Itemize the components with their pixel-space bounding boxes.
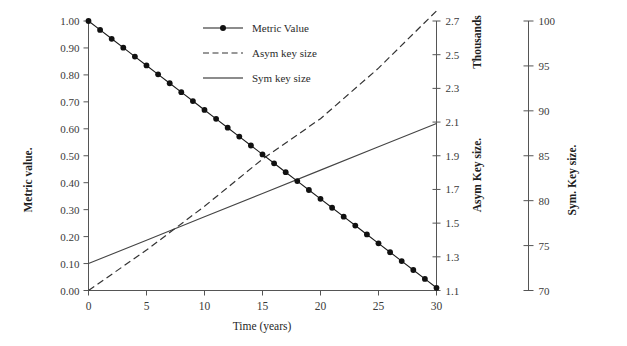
left-y-tick-label: 0.00 bbox=[60, 285, 80, 297]
series-metric-value-marker bbox=[97, 27, 103, 33]
secondary-y-tick-label: 2.3 bbox=[446, 82, 460, 94]
secondary-y-tick-label: 1.5 bbox=[446, 217, 460, 229]
left-y-tick-label: 0.10 bbox=[60, 258, 80, 270]
series-metric-value-marker bbox=[109, 36, 115, 42]
tertiary-y-tick-label: 70 bbox=[539, 285, 551, 297]
secondary-y-tick-label: 1.3 bbox=[446, 251, 460, 263]
left-y-tick-label: 0.70 bbox=[60, 96, 80, 108]
series-metric-value-marker bbox=[86, 18, 92, 24]
left-y-tick-label: 0.40 bbox=[60, 177, 80, 189]
series-metric-value-marker bbox=[144, 63, 150, 69]
chart-figure: 0.000.100.200.300.400.500.600.700.800.90… bbox=[0, 0, 627, 346]
series-metric-value-marker bbox=[271, 160, 277, 166]
series-metric-value-marker bbox=[434, 285, 440, 291]
series-metric-value-marker bbox=[236, 134, 242, 140]
legend-label-asym-key-size: Asym key size bbox=[252, 47, 317, 59]
left-y-axis-title: Metric value. bbox=[22, 147, 34, 212]
series-metric-value-marker bbox=[213, 116, 219, 122]
x-tick-label: 15 bbox=[257, 300, 269, 312]
series-metric-value-marker bbox=[283, 169, 289, 175]
series-metric-value-marker bbox=[190, 98, 196, 104]
series-metric-value-marker bbox=[329, 205, 335, 211]
tertiary-y-tick-label: 80 bbox=[539, 195, 551, 207]
left-y-tick-label: 0.90 bbox=[60, 42, 80, 54]
chart-legend: Metric Value Asym key size Sym key size bbox=[203, 22, 317, 84]
x-axis-ticks: 051015202530 bbox=[86, 291, 443, 312]
secondary-y-tick-label: 1.9 bbox=[446, 150, 460, 162]
series-sym-key-size-line bbox=[89, 123, 437, 263]
tertiary-y-tick-label: 75 bbox=[539, 240, 551, 252]
series-metric-value-marker bbox=[341, 214, 347, 220]
left-y-tick-label: 0.60 bbox=[60, 123, 80, 135]
tertiary-y-axis-title: Sym. Key size. bbox=[566, 144, 579, 215]
series-metric-value-marker bbox=[178, 89, 184, 95]
series-metric-value-marker bbox=[294, 178, 300, 184]
secondary-y-tick-label: 2.5 bbox=[446, 49, 460, 61]
legend-marker-metric-value bbox=[220, 25, 226, 31]
left-y-tick-label: 0.50 bbox=[60, 150, 80, 162]
series-metric-value-marker bbox=[225, 125, 231, 131]
x-tick-label: 20 bbox=[315, 300, 327, 312]
left-y-axis-ticks: 0.000.100.200.300.400.500.600.700.800.90… bbox=[60, 15, 88, 297]
secondary-y-axis-title: Asym Key size. bbox=[471, 138, 484, 213]
series-metric-value-marker bbox=[387, 249, 393, 255]
series-metric-value-marker bbox=[120, 45, 126, 51]
secondary-y-tick-label: 2.7 bbox=[446, 15, 460, 27]
series-metric-value-marker bbox=[155, 71, 161, 77]
series-metric-value-marker bbox=[352, 223, 358, 229]
series-metric-value-marker bbox=[399, 258, 405, 264]
x-tick-label: 25 bbox=[373, 300, 385, 312]
legend-label-metric-value: Metric Value bbox=[252, 22, 309, 34]
series-metric-value-marker bbox=[364, 232, 370, 238]
chart-canvas: 0.000.100.200.300.400.500.600.700.800.90… bbox=[0, 0, 627, 346]
secondary-y-tick-label: 1.7 bbox=[446, 183, 460, 195]
series-metric-value-marker bbox=[422, 276, 428, 282]
left-y-tick-label: 0.80 bbox=[60, 69, 80, 81]
x-tick-label: 5 bbox=[144, 300, 150, 312]
series-metric-value-marker bbox=[260, 152, 266, 158]
x-tick-label: 0 bbox=[86, 300, 92, 312]
tertiary-y-tick-label: 95 bbox=[539, 60, 551, 72]
secondary-y-axis-unit-note: Thousands bbox=[471, 15, 483, 69]
left-y-tick-label: 0.30 bbox=[60, 204, 80, 216]
series-metric-value-marker bbox=[202, 107, 208, 113]
left-y-tick-label: 1.00 bbox=[60, 15, 80, 27]
x-tick-label: 30 bbox=[431, 300, 443, 312]
tertiary-y-tick-label: 85 bbox=[539, 150, 551, 162]
series-metric-value-marker bbox=[410, 267, 416, 273]
x-tick-label: 10 bbox=[199, 300, 211, 312]
legend-item-metric-value: Metric Value bbox=[203, 22, 309, 34]
axis-group bbox=[89, 21, 529, 291]
tertiary-y-tick-label: 90 bbox=[539, 105, 551, 117]
series-metric-value-marker bbox=[248, 143, 254, 149]
left-y-tick-label: 0.20 bbox=[60, 231, 80, 243]
legend-item-sym-key-size: Sym key size bbox=[203, 72, 311, 84]
x-axis-title: Time (years) bbox=[233, 320, 292, 333]
series-metric-value-marker bbox=[376, 240, 382, 246]
series-metric-value-marker bbox=[132, 54, 138, 60]
legend-label-sym-key-size: Sym key size bbox=[252, 72, 311, 84]
series-metric-value-marker bbox=[167, 80, 173, 86]
series-metric-value-marker bbox=[318, 196, 324, 202]
series-metric-value-marker bbox=[306, 187, 312, 193]
secondary-y-tick-label: 1.1 bbox=[446, 285, 460, 297]
legend-item-asym-key-size: Asym key size bbox=[203, 47, 317, 59]
secondary-y-tick-label: 2.1 bbox=[446, 116, 460, 128]
tertiary-y-tick-label: 100 bbox=[539, 15, 556, 27]
